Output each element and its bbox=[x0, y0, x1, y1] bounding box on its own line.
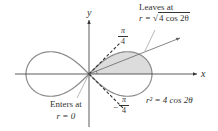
y-axis-label: y bbox=[87, 8, 91, 18]
enters-label: Enters at r = 0 bbox=[50, 100, 82, 121]
minus-sign: − bbox=[113, 103, 118, 112]
angle-label-minus-pi-over-4: π 4 bbox=[119, 96, 129, 115]
leaves-label: Leaves at r = √4 cos 2θ bbox=[139, 3, 190, 23]
leaves-leader-line bbox=[145, 30, 155, 51]
x-axis-label: x bbox=[201, 69, 205, 79]
angle-label-pi-over-4: π 4 bbox=[118, 27, 128, 46]
lemniscate-diagram: y x π 4 − π 4 Leaves at r = √4 cos 2θ En… bbox=[0, 0, 218, 131]
curve-equation-label: r² = 4 cos 2θ bbox=[146, 96, 193, 105]
enters-leader-line bbox=[77, 74, 89, 98]
